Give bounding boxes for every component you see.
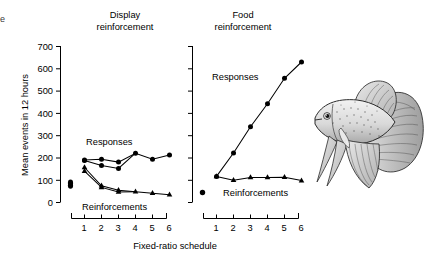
left-series-reinforcements-b bbox=[82, 168, 136, 194]
right-x-tick-labels: 1 2 3 4 5 6 bbox=[213, 223, 303, 233]
xtick-2: 2 bbox=[98, 223, 103, 233]
panel-food-reinforcement: Food reinforcement bbox=[188, 10, 304, 233]
ytick-500: 500 bbox=[37, 86, 53, 96]
xtick-2: 2 bbox=[230, 223, 235, 233]
clipped-figure-label: e bbox=[0, 14, 8, 24]
xtick-3: 3 bbox=[247, 223, 252, 233]
panel-title-display-1: Display bbox=[110, 10, 141, 20]
betta-fish-illustration bbox=[315, 81, 423, 188]
ytick-600: 600 bbox=[37, 64, 53, 74]
xtick-5: 5 bbox=[149, 223, 154, 233]
panel-title-food-2: reinforcement bbox=[215, 22, 272, 32]
xtick-3: 3 bbox=[115, 223, 120, 233]
left-series-responses-b bbox=[82, 153, 136, 171]
figure-svg: Mean events in 12 hours Fixed-ratio sche… bbox=[0, 0, 443, 254]
left-annotation-responses: Responses bbox=[86, 137, 133, 147]
left-x-tick-labels: 1 2 3 4 5 6 bbox=[81, 223, 171, 233]
left-y-axis bbox=[56, 46, 61, 203]
fish-anal-fin bbox=[345, 140, 380, 188]
xtick-4: 4 bbox=[132, 223, 137, 233]
ytick-100: 100 bbox=[37, 176, 53, 186]
xtick-1: 1 bbox=[81, 223, 86, 233]
panel-display-reinforcement: Display reinforcement 700 600 500 400 bbox=[37, 10, 172, 233]
left-series-responses-a bbox=[82, 151, 172, 165]
panel-title-display-2: reinforcement bbox=[97, 22, 154, 32]
fish-pelvic-fins bbox=[317, 136, 347, 186]
xtick-4: 4 bbox=[264, 223, 269, 233]
left-annotation-reinforcements: Reinforcements bbox=[82, 202, 147, 212]
figure-container: e Mean events in 12 hours Fixed-ratio sc… bbox=[0, 0, 443, 254]
ytick-0: 0 bbox=[48, 198, 53, 208]
right-y-axis bbox=[188, 46, 193, 203]
left-y-tick-labels: 700 600 500 400 300 200 100 0 bbox=[37, 42, 53, 208]
ytick-300: 300 bbox=[37, 131, 53, 141]
x-axis-label: Fixed-ratio schedule bbox=[133, 241, 217, 251]
ytick-400: 400 bbox=[37, 109, 53, 119]
left-baseline-points bbox=[68, 180, 73, 189]
right-baseline-points bbox=[200, 190, 205, 195]
xtick-1: 1 bbox=[213, 223, 218, 233]
ytick-200: 200 bbox=[37, 153, 53, 163]
xtick-6: 6 bbox=[298, 223, 303, 233]
right-annotation-reinforcements: Reinforcements bbox=[223, 188, 288, 198]
ytick-700: 700 bbox=[37, 42, 53, 52]
right-x-axis bbox=[204, 213, 299, 219]
left-x-axis bbox=[72, 213, 167, 219]
panel-title-food-1: Food bbox=[232, 10, 253, 20]
y-axis-label: Mean events in 12 hours bbox=[20, 74, 30, 176]
right-annotation-responses: Responses bbox=[212, 72, 259, 82]
xtick-5: 5 bbox=[281, 223, 286, 233]
right-series-reinforcements bbox=[214, 173, 305, 182]
xtick-6: 6 bbox=[166, 223, 171, 233]
